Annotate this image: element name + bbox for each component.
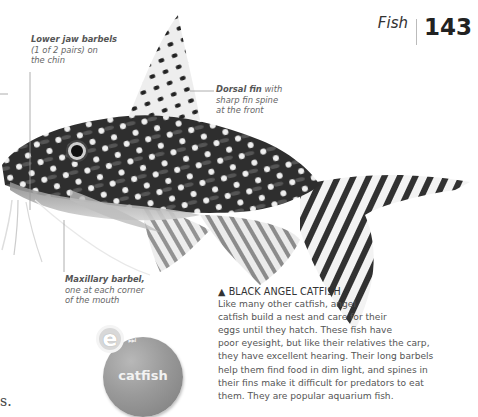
triangle-up-icon: ▲ [218,286,225,297]
caption-line: they have excellent hearing. Their long … [218,350,478,363]
species-caption: ▲ BLACK ANGEL CATFISH Like many other ca… [218,285,478,403]
caption-line: catfish build a nest and care for their [218,311,478,324]
annotation-text: one at each corner [65,285,144,295]
fast-forward-icon: ⏭ [128,335,134,346]
annotation-text: with [262,84,282,94]
annotation-term: Dorsal fin [216,84,262,94]
caption-title-text: BLACK ANGEL CATFISH [229,286,341,297]
cut-off-text: s. [0,393,12,409]
annotation-text: at the front [216,105,264,115]
dorsal-fin [128,15,200,120]
annotation-lower-jaw-barbels: Lower jaw barbels (1 of 2 pairs) on the … [31,34,141,66]
annotation-term: Maxillary barbel, [65,274,145,284]
caption-title: ▲ BLACK ANGEL CATFISH [218,285,478,298]
annotation-term: Lower jaw barbels [31,34,117,44]
e-link-logo-icon: e [96,325,124,353]
caption-line: help them find food in dim light, and sp… [218,364,478,377]
caption-line: Like many other catfish, angel [218,298,478,311]
chin-barbel [2,200,12,250]
annotation-text: (1 of 2 pairs) on [31,45,98,55]
annotation-text: of the mouth [65,295,119,305]
caption-line: eggs until they hatch. These fish have [218,324,478,337]
e-link-keyword: catfish [103,368,183,383]
e-link-catfish-button[interactable]: e ⏭ catfish [93,323,193,415]
annotation-maxillary-barbel: Maxillary barbel, one at each corner of … [65,274,195,306]
caption-line: poor eyesight, but like their relatives … [218,337,478,350]
caption-line: their fins make it difficult for predato… [218,377,478,390]
annotation-text: sharp fin spine [216,95,278,105]
annotation-text: the chin [31,55,65,65]
caption-line: them. They are popular aquarium fish. [218,390,478,403]
anal-fin [200,215,300,285]
annotation-dorsal-fin: Dorsal fin with sharp fin spine at the f… [216,84,326,116]
